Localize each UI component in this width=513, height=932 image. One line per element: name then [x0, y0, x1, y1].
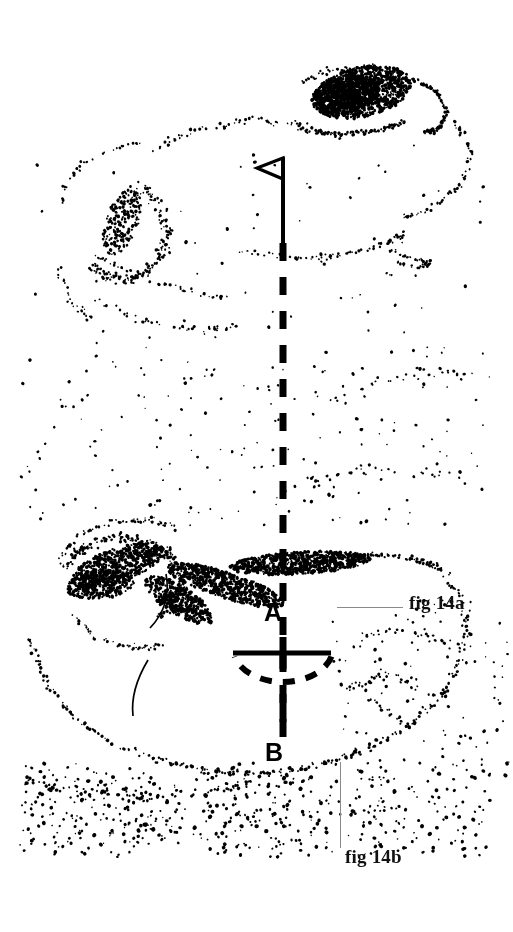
- leader-line-fig14b: [340, 762, 341, 848]
- plane-marker-label-b: B: [265, 740, 283, 765]
- figure-container: fig 14a fig 14b A B: [0, 0, 513, 932]
- plane-marker-label-a: A: [264, 600, 282, 625]
- leader-line-fig14a: [337, 607, 403, 608]
- callout-label-fig14a: fig 14a: [409, 592, 465, 614]
- callout-label-fig14b: fig 14b: [345, 846, 402, 868]
- stipple-illustration-canvas: [0, 0, 513, 932]
